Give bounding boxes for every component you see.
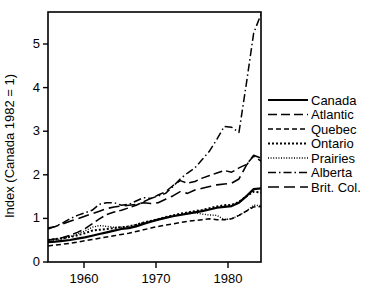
y-tick-label: 4 [33, 80, 40, 95]
x-ticks [84, 262, 228, 268]
x-tick-labels: 1960 1970 1980 [70, 271, 243, 286]
y-axis-label: Index (Canada 1982 = 1) [2, 74, 17, 218]
y-tick-label: 2 [33, 167, 40, 182]
series-line-alberta [48, 14, 261, 229]
legend: CanadaAtlanticQuebecOntarioPrairiesAlber… [268, 93, 361, 195]
y-tick-label: 5 [33, 36, 40, 51]
y-tick-label: 3 [33, 123, 40, 138]
series-line-quebec [48, 206, 261, 245]
series-line-brit-col [48, 155, 261, 228]
figure-container: Index (Canada 1982 = 1) 5 4 3 2 1 0 [0, 0, 380, 297]
legend-label-atlantic: Atlantic [311, 107, 354, 122]
legend-label-alberta: Alberta [311, 165, 353, 180]
x-tick-label: 1970 [142, 271, 171, 286]
y-tick-labels: 5 4 3 2 1 0 [33, 36, 40, 269]
legend-label-quebec: Quebec [311, 122, 357, 137]
legend-label-brit-col: Brit. Col. [311, 180, 361, 195]
legend-label-ontario: Ontario [311, 136, 354, 151]
line-chart: Index (Canada 1982 = 1) 5 4 3 2 1 0 [0, 0, 380, 297]
series-line-ontario [48, 192, 261, 240]
legend-label-canada: Canada [311, 93, 357, 108]
legend-label-prairies: Prairies [311, 151, 356, 166]
x-tick-label: 1960 [70, 271, 99, 286]
series-layer [48, 14, 261, 246]
plot-frame [48, 12, 261, 262]
x-tick-label: 1980 [214, 271, 243, 286]
y-tick-label: 1 [33, 210, 40, 225]
y-tick-label: 0 [33, 254, 40, 269]
